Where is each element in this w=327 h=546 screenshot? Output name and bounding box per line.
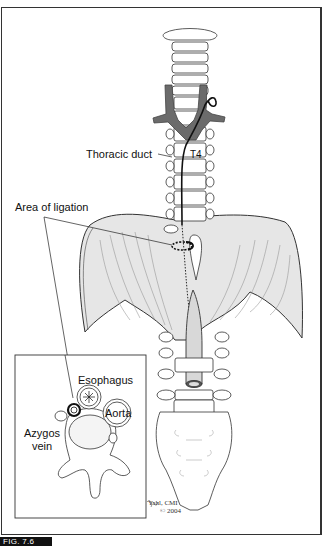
label-area-of-ligation: Area of ligation: [15, 202, 88, 213]
label-azygos-vein-line1: Azygos: [22, 428, 62, 439]
lumbar-spine-and-sacrum: [156, 332, 232, 510]
label-t4: T4: [190, 150, 202, 160]
label-aorta: Aorta: [105, 408, 131, 419]
artist-signature: Yahl, CMI: [148, 500, 178, 507]
label-thoracic-duct: Thoracic duct: [86, 149, 152, 160]
figure-label: FIG. 7.6: [0, 537, 52, 546]
label-esophagus: Esophagus: [78, 375, 133, 386]
copyright-notice: © 2004: [160, 508, 181, 515]
label-azygos-vein-line2: vein: [22, 441, 62, 452]
anatomy-illustration: [0, 0, 327, 546]
